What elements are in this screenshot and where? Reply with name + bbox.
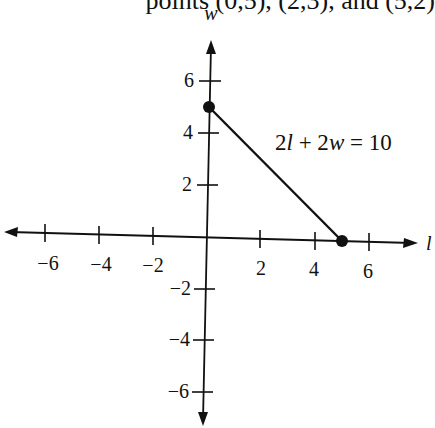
y-axis-up-arrow-icon xyxy=(206,40,216,54)
y-tick-label: 6 xyxy=(184,69,194,91)
y-tick-label: −6 xyxy=(168,380,189,402)
coordinate-plane: −6 −4 −2 2 4 6 −6 −4 −2 2 4 6 w l 2l + 2… xyxy=(0,0,435,428)
x-tick-label: 6 xyxy=(363,260,373,282)
y-tick-labels: −6 −4 −2 2 4 6 xyxy=(168,69,194,402)
y-axis-down-arrow-icon xyxy=(198,412,208,426)
series-line xyxy=(203,101,348,247)
y-tick-label: 4 xyxy=(183,121,193,143)
point-0-5 xyxy=(203,101,215,113)
x-axis-left-arrow-icon xyxy=(4,227,18,237)
y-tick-label: −4 xyxy=(169,328,190,350)
point-5-0 xyxy=(336,235,348,247)
x-axis xyxy=(4,227,418,248)
x-tick-label: −6 xyxy=(37,252,58,274)
x-tick-label: 4 xyxy=(309,258,319,280)
x-tick-label: 2 xyxy=(256,257,266,279)
x-axis-label: l xyxy=(426,232,432,254)
y-axis-label: w xyxy=(204,2,218,24)
x-axis-right-arrow-icon xyxy=(403,238,418,248)
y-axis xyxy=(198,40,216,426)
x-tick-label: −4 xyxy=(90,253,111,275)
equation-label: 2l + 2w = 10 xyxy=(275,130,392,155)
y-tick-label: 2 xyxy=(182,173,192,195)
x-tick-label: −2 xyxy=(142,254,163,276)
y-tick-label: −2 xyxy=(170,277,191,299)
